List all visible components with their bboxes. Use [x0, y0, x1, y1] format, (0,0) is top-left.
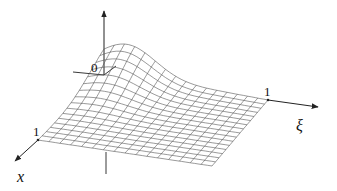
- xi-axis-label: ξ: [296, 117, 303, 134]
- xi-tick-label: 1: [264, 84, 271, 99]
- xi-axis: [268, 100, 318, 107]
- x-axis-label: x: [16, 168, 24, 185]
- x-tick-label: 1: [33, 124, 40, 139]
- x-axis: [15, 140, 38, 161]
- origin-label: 0: [91, 60, 98, 75]
- surface-mesh: [38, 44, 268, 166]
- surface-plot: 0 1 ξ 1 x: [0, 0, 337, 191]
- x-tick-point: [37, 139, 40, 142]
- xi-tick-point: [267, 99, 270, 102]
